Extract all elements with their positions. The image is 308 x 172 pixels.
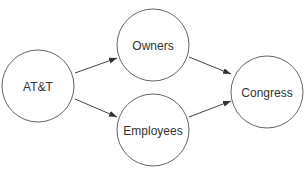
node-att-label: AT&T: [0, 80, 78, 94]
node-employees-label: Employees: [113, 124, 193, 138]
node-owners-label: Owners: [113, 39, 193, 53]
edge-owners-congress: [189, 57, 231, 74]
edge-att-employees: [75, 99, 117, 117]
edge-employees-congress: [189, 101, 231, 117]
edge-att-owners: [75, 58, 117, 73]
node-congress-label: Congress: [227, 86, 307, 100]
